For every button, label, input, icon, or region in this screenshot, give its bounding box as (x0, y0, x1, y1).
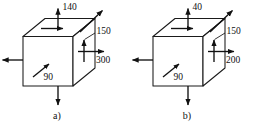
label-a-shear-right: 150 (97, 26, 112, 36)
label-b-front-diagonal: 90 (174, 72, 184, 82)
stress-element-b: 40 150 200 90 b) (133, 2, 242, 122)
stress-element-figure: 140 150 300 90 a) (0, 0, 261, 127)
label-b-top: 40 (193, 2, 203, 12)
stress-element-a: 140 150 300 90 a) (3, 2, 112, 122)
label-a-top: 140 (63, 2, 78, 12)
label-a-front-diagonal: 90 (44, 72, 54, 82)
label-a-normal-right: 300 (96, 55, 111, 65)
caption-b: b) (183, 110, 191, 122)
figure-canvas: 140 150 300 90 a) (0, 0, 261, 127)
label-b-normal-right: 200 (226, 55, 241, 65)
label-b-shear-right: 150 (227, 26, 242, 36)
caption-a: a) (53, 110, 61, 122)
